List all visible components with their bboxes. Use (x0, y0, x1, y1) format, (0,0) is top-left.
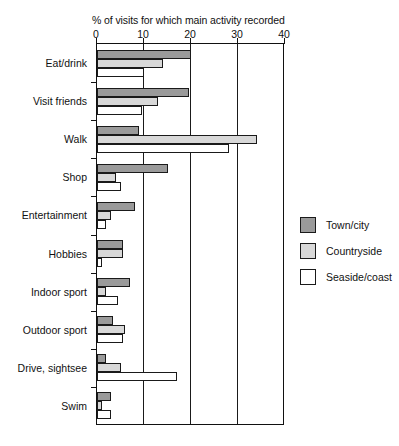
bar-town-6 (97, 278, 130, 287)
bar-town-2 (97, 126, 139, 135)
bar-seaside-3 (97, 182, 121, 191)
category-label-visit-friends: Visit friends (0, 95, 87, 107)
legend-label-country: Countryside (326, 244, 382, 258)
bar-town-8 (97, 354, 106, 363)
bar-country-3 (97, 173, 116, 182)
gridline-30 (237, 44, 238, 424)
bar-country-9 (97, 401, 102, 410)
plot-area (96, 44, 284, 425)
category-label-drive-sightsee: Drive, sightsee (0, 362, 87, 374)
bar-town-3 (97, 164, 168, 173)
bar-town-7 (97, 316, 113, 325)
plot-inner (97, 44, 283, 424)
gridline-20 (190, 44, 191, 424)
chart-legend: Town/cityCountrysideSeaside/coast (300, 215, 399, 293)
category-label-hobbies: Hobbies (0, 248, 87, 260)
bar-seaside-8 (97, 372, 177, 381)
bar-town-1 (97, 88, 189, 97)
category-label-entertainment: Entertainment (0, 209, 87, 221)
category-label-shop: Shop (0, 171, 87, 183)
bar-country-4 (97, 211, 111, 220)
bar-town-4 (97, 202, 135, 211)
category-label-walk: Walk (0, 133, 87, 145)
legend-item-country: Countryside (300, 241, 399, 267)
bar-seaside-2 (97, 144, 229, 153)
category-label-swim: Swim (0, 400, 87, 412)
bar-country-8 (97, 363, 121, 372)
bar-seaside-4 (97, 220, 106, 229)
bar-town-5 (97, 240, 123, 249)
category-label-eat-drink: Eat/drink (0, 57, 87, 69)
bar-town-9 (97, 392, 111, 401)
legend-label-town: Town/city (326, 218, 369, 232)
bar-country-1 (97, 97, 158, 106)
category-label-outdoor-sport: Outdoor sport (0, 324, 87, 336)
bar-seaside-1 (97, 106, 142, 115)
bar-chart: % of visits for which main activity reco… (0, 0, 399, 446)
legend-swatch-seaside (300, 269, 316, 285)
bar-seaside-7 (97, 334, 123, 343)
bar-town-0 (97, 50, 191, 59)
bar-country-0 (97, 59, 163, 68)
legend-swatch-country (300, 243, 316, 259)
legend-item-seaside: Seaside/coast (300, 267, 399, 293)
legend-swatch-town (300, 217, 316, 233)
bar-seaside-6 (97, 296, 118, 305)
legend-item-town: Town/city (300, 215, 399, 241)
bar-country-7 (97, 325, 125, 334)
category-label-indoor-sport: Indoor sport (0, 286, 87, 298)
bar-country-5 (97, 249, 123, 258)
x-tick-40 (284, 38, 285, 44)
bar-seaside-0 (97, 68, 144, 77)
bar-seaside-5 (97, 258, 102, 267)
bar-country-2 (97, 135, 257, 144)
bar-seaside-9 (97, 410, 111, 419)
legend-label-seaside: Seaside/coast (326, 270, 392, 284)
bar-country-6 (97, 287, 106, 296)
chart-title: % of visits for which main activity reco… (92, 14, 372, 26)
